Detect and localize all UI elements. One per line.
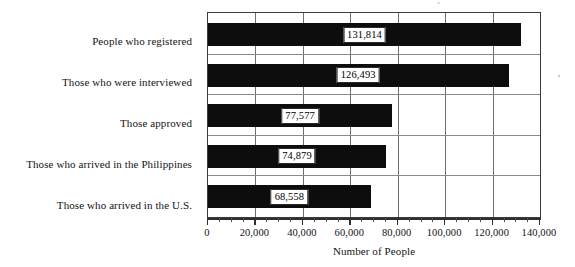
- x-tick-minor: [278, 218, 279, 222]
- x-tick-major: [254, 218, 255, 225]
- x-tick-major: [302, 218, 303, 225]
- value-label: 77,577: [281, 108, 318, 124]
- x-tick-minor: [409, 218, 410, 222]
- horizontal-bar-chart: People who registered Those who were int…: [0, 0, 575, 267]
- value-label: 68,558: [271, 189, 308, 205]
- x-tick-minor: [361, 218, 362, 222]
- x-tick-minor: [468, 218, 469, 222]
- value-label: 126,493: [337, 67, 380, 83]
- x-axis-title: Number of People: [207, 245, 541, 258]
- category-label: Those approved: [0, 117, 192, 129]
- x-tick-minor: [314, 218, 315, 222]
- x-tick-major: [444, 218, 445, 225]
- x-tick-major: [539, 218, 540, 225]
- x-tick-major: [207, 218, 208, 225]
- x-tick-minor: [373, 218, 374, 222]
- x-tick-major: [397, 218, 398, 225]
- plot-area: 131,814 126,493 77,577 74,879 68,558: [207, 12, 541, 218]
- x-tick-label: 80,000: [382, 227, 411, 239]
- x-tick-label: 20,000: [240, 227, 269, 239]
- x-tick-label: 60,000: [335, 227, 364, 239]
- x-tick-minor: [504, 218, 505, 222]
- x-axis: 0 20,000 40,000 60,000 80,000 100,000 12…: [207, 218, 541, 220]
- category-label: People who registered: [0, 35, 192, 47]
- category-label: Those who arrived in the Philippines: [0, 158, 192, 170]
- category-label: Those who were interviewed: [0, 76, 192, 88]
- x-tick-minor: [231, 218, 232, 222]
- x-tick-minor: [421, 218, 422, 222]
- x-tick-label: 100,000: [427, 227, 462, 239]
- x-tick-minor: [527, 218, 528, 222]
- x-tick-major: [492, 218, 493, 225]
- value-label: 131,814: [343, 27, 386, 43]
- scan-artifact-speck: [437, 2, 440, 4]
- x-tick-minor: [432, 218, 433, 222]
- x-tick-major: [349, 218, 350, 225]
- x-tick-label: 140,000: [522, 227, 557, 239]
- x-tick-minor: [219, 218, 220, 222]
- x-tick-minor: [480, 218, 481, 222]
- gridline-horizontal: [208, 175, 540, 176]
- value-label: 74,879: [278, 148, 315, 164]
- x-tick-minor: [266, 218, 267, 222]
- x-tick-label: 40,000: [287, 227, 316, 239]
- category-label: Those who arrived in the U.S.: [0, 199, 192, 211]
- x-tick-minor: [338, 218, 339, 222]
- gridline-horizontal: [208, 94, 540, 95]
- gridline-horizontal: [208, 54, 540, 55]
- gridline-horizontal: [208, 135, 540, 136]
- x-tick-minor: [515, 218, 516, 222]
- x-tick-minor: [243, 218, 244, 222]
- x-tick-minor: [456, 218, 457, 222]
- x-tick-minor: [290, 218, 291, 222]
- x-tick-label: 120,000: [474, 227, 509, 239]
- scan-artifact-speck: [558, 75, 560, 77]
- x-tick-label: 0: [204, 227, 209, 239]
- x-tick-minor: [326, 218, 327, 222]
- category-axis-labels: People who registered Those who were int…: [0, 12, 200, 218]
- x-tick-minor: [385, 218, 386, 222]
